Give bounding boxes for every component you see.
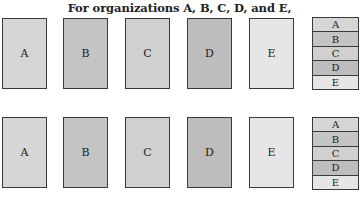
card-label: A bbox=[21, 146, 29, 159]
segment-label: D bbox=[331, 162, 339, 173]
stack-segment-d: D bbox=[313, 161, 358, 175]
org-card-c: C bbox=[125, 117, 170, 188]
segment-label: D bbox=[331, 62, 339, 73]
card-label: E bbox=[267, 47, 275, 60]
org-card-a: A bbox=[2, 117, 47, 188]
card-label: C bbox=[143, 146, 151, 159]
stack-segment-c: C bbox=[313, 147, 358, 161]
org-card-b: B bbox=[63, 18, 108, 89]
stack-segment-d: D bbox=[313, 61, 358, 75]
segment-label: E bbox=[332, 77, 339, 88]
org-card-c: C bbox=[125, 18, 170, 89]
stack-segment-e: E bbox=[313, 176, 358, 189]
diagram-title: For organizations A, B, C, D, and E, bbox=[0, 1, 359, 15]
stack-segment-b: B bbox=[313, 132, 358, 146]
card-label: C bbox=[143, 47, 151, 60]
stack-segment-a: A bbox=[313, 18, 358, 32]
segment-label: A bbox=[332, 19, 339, 30]
org-card-d: D bbox=[187, 117, 232, 188]
card-label: E bbox=[267, 146, 275, 159]
stack-segment-a: A bbox=[313, 118, 358, 132]
stack-segment-b: B bbox=[313, 32, 358, 46]
stack-segment-e: E bbox=[313, 76, 358, 89]
segment-label: B bbox=[332, 34, 339, 45]
org-card-d: D bbox=[187, 18, 232, 89]
segment-label: C bbox=[332, 48, 340, 59]
org-card-a: A bbox=[2, 18, 47, 89]
card-label: B bbox=[81, 47, 89, 60]
card-label: D bbox=[205, 47, 214, 60]
stack-segment-c: C bbox=[313, 47, 358, 61]
org-card-e: E bbox=[249, 18, 294, 89]
org-stack: A B C D E bbox=[312, 17, 359, 90]
card-label: D bbox=[205, 146, 214, 159]
org-card-b: B bbox=[63, 117, 108, 188]
org-card-e: E bbox=[249, 117, 294, 188]
card-label: B bbox=[81, 146, 89, 159]
segment-label: A bbox=[332, 119, 339, 130]
segment-label: C bbox=[332, 148, 340, 159]
segment-label: E bbox=[332, 177, 339, 188]
card-label: A bbox=[21, 47, 29, 60]
segment-label: B bbox=[332, 134, 339, 145]
org-stack: A B C D E bbox=[312, 117, 359, 190]
